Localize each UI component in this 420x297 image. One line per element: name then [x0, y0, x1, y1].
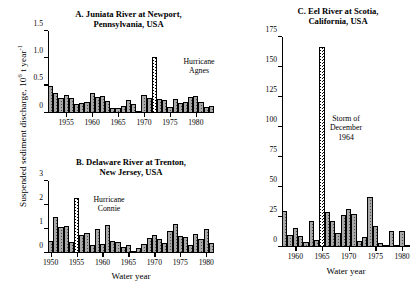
panel-b-x-tick [128, 253, 129, 257]
panel-c-y-tick-label: 50 [269, 174, 277, 183]
panel-c-annotation-line3: 1964 [314, 133, 378, 142]
panel-a-y-tick-label: 0 [39, 100, 43, 109]
panel-b-x-tick [51, 253, 52, 257]
panel-c-x-tick-label: 1960 [288, 252, 303, 261]
panel-c-x-tick [295, 247, 296, 251]
panel-a-x-tick-label: 1975 [162, 118, 177, 127]
panel-b-plot-area: 01231950195519601965197019751980 [48, 181, 214, 253]
panel-c-y-tick [278, 186, 282, 187]
panel-b-x-axis-title: Water year [48, 271, 214, 281]
panel-c-y-tick-label: 175 [266, 24, 277, 33]
panel-c-x-tick [402, 247, 403, 251]
figure-root: Suspended sediment discharge, 106 t year… [0, 0, 420, 297]
panel-a-annotation: Hurricane Agnes [168, 57, 230, 76]
panel-b-title-line2: New Jersey, USA [36, 167, 226, 177]
panel-c-title: C. Eel River at Scotia, California, USA [262, 6, 414, 26]
panel-b-annotation: Hurricane Connie [78, 195, 140, 214]
panel-a-y-tick [44, 84, 48, 85]
panel-c-x-tick-label: 1970 [341, 252, 356, 261]
panel-b-x-tick-label: 1965 [121, 258, 136, 267]
panel-a-bar [209, 106, 214, 113]
panel-a-title: A. Juniata River at Newport, Pennsylvani… [36, 9, 221, 29]
panel-a-x-tick-label: 1980 [188, 118, 203, 127]
panel-c-x-tick [375, 247, 376, 251]
panel-b-y-tick-label: 3 [39, 168, 43, 177]
panel-a-y-tick [44, 57, 48, 58]
panel-b-annotation-line2: Connie [78, 204, 140, 213]
panel-c-y-tick-label: 25 [269, 204, 277, 213]
panel-b-x-tick [102, 253, 103, 257]
panel-a-y-tick-label: 1.0 [34, 45, 44, 54]
panel-c-x-tick [349, 247, 350, 251]
panel-c-annotation: Storm of December 1964 [314, 114, 378, 142]
panel-a-x-tick [92, 113, 93, 117]
panel-b-x-tick-label: 1960 [95, 258, 110, 267]
panel-c-y-tick-label: 0 [273, 234, 277, 243]
panel-c-y-tick-label: 75 [269, 144, 277, 153]
panel-c-y-tick [278, 96, 282, 97]
panel-a-x-tick [66, 113, 67, 117]
panel-b-x-tick-label: 1970 [147, 258, 162, 267]
panel-b-y-tick-label: 0 [39, 240, 43, 249]
panel-a: A. Juniata River at Newport, Pennsylvani… [0, 0, 240, 140]
panel-b-title-line1: B. Delaware River at Trenton, [36, 157, 226, 167]
panel-a-x-tick-label: 1960 [85, 118, 100, 127]
panel-b-y-tick [44, 252, 48, 253]
panel-c-title-line2: California, USA [262, 16, 414, 26]
panel-c-x-tick-label: 1980 [394, 252, 409, 261]
panel-c-y-tick [278, 156, 282, 157]
panel-b-y-tick-label: 2 [39, 192, 43, 201]
panel-a-x-tick [196, 113, 197, 117]
panel-c-y-tick-label: 125 [266, 84, 277, 93]
panel-b-x-tick-label: 1980 [199, 258, 214, 267]
panel-b-x-tick [154, 253, 155, 257]
panel-c-y-tick [278, 126, 282, 127]
panel-c-x-tick-label: 1965 [314, 252, 329, 261]
panel-a-title-line1: A. Juniata River at Newport, [36, 9, 221, 19]
panel-a-x-tick [118, 113, 119, 117]
panel-b-y-tick [44, 228, 48, 229]
panel-c-x-axis-title: Water year [282, 266, 410, 276]
panel-b-x-tick [206, 253, 207, 257]
panel-c-y-tick [278, 36, 282, 37]
panel-b-title: B. Delaware River at Trenton, New Jersey… [36, 157, 226, 177]
panel-c-y-tick-label: 150 [266, 54, 277, 63]
panel-a-x-tick [170, 113, 171, 117]
panel-a-title-line2: Pennsylvania, USA [36, 19, 221, 29]
panel-c: C. Eel River at Scotia, California, USA … [240, 0, 420, 297]
panel-a-x-tick-label: 1965 [110, 118, 125, 127]
panel-a-y-tick-label: 1.5 [34, 18, 44, 27]
panel-c-y-tick [278, 246, 282, 247]
panel-b-x-tick [77, 253, 78, 257]
panel-c-bar [405, 245, 410, 247]
panel-a-x-tick-label: 1970 [136, 118, 151, 127]
panel-a-x-tick [144, 113, 145, 117]
panel-b: B. Delaware River at Trenton, New Jersey… [0, 140, 240, 297]
panel-a-x-tick-label: 1955 [59, 118, 74, 127]
panel-c-annotation-line1: Storm of [314, 114, 378, 123]
panel-c-annotation-line2: December [314, 123, 378, 132]
panel-b-x-tick-label: 1955 [69, 258, 84, 267]
panel-b-y-tick [44, 204, 48, 205]
panel-b-y-tick-label: 1 [39, 216, 43, 225]
panel-a-y-tick [44, 112, 48, 113]
panel-a-y-tick [44, 30, 48, 31]
panel-a-annotation-line2: Agnes [168, 66, 230, 75]
panel-c-y-tick-label: 100 [266, 114, 277, 123]
panel-b-x-tick [180, 253, 181, 257]
panel-c-x-tick [322, 247, 323, 251]
panel-a-y-tick-label: 0.5 [34, 73, 44, 82]
panel-b-x-tick-label: 1950 [43, 258, 58, 267]
panel-b-bar [209, 243, 214, 253]
panel-b-x-tick-label: 1975 [173, 258, 188, 267]
panel-c-x-tick-label: 1975 [368, 252, 383, 261]
panel-c-y-tick [278, 216, 282, 217]
panel-c-title-line1: C. Eel River at Scotia, [262, 6, 414, 16]
panel-b-bars [48, 181, 214, 253]
panel-c-y-tick [278, 66, 282, 67]
panel-b-annotation-line1: Hurricane [78, 195, 140, 204]
panel-a-annotation-line1: Hurricane [168, 57, 230, 66]
panel-b-y-tick [44, 180, 48, 181]
